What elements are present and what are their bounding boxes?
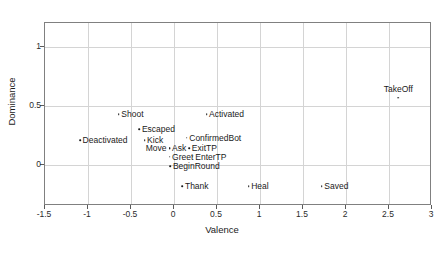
data-point-marker — [118, 113, 120, 115]
x-tick-label: 2 — [343, 209, 348, 219]
data-point-marker — [169, 156, 171, 158]
data-point-marker — [189, 148, 191, 150]
gridline-horizontal — [45, 106, 430, 107]
data-point-marker — [321, 185, 323, 187]
data-point-label: TakeOff — [384, 84, 413, 94]
data-point-label: ConfirmedBot — [189, 133, 241, 143]
y-axis-title: Dominance — [6, 67, 17, 137]
x-tick-label: -1 — [83, 209, 91, 219]
data-point-marker — [186, 137, 188, 139]
gridline-vertical — [389, 23, 390, 204]
gridline-vertical — [346, 23, 347, 204]
data-point-marker — [169, 148, 171, 150]
gridline-vertical — [303, 23, 304, 204]
x-tick-label: 2.5 — [382, 209, 394, 219]
gridline-vertical — [88, 23, 89, 204]
data-point-label: Shoot — [121, 109, 143, 119]
data-point-label: Escaped — [142, 124, 175, 134]
x-tick-label: 0.5 — [210, 209, 222, 219]
data-point-label: Deactivated — [83, 135, 128, 145]
data-point-marker — [182, 185, 184, 187]
data-point-marker — [248, 185, 250, 187]
data-point-marker — [170, 165, 172, 167]
x-tick-label: 3 — [429, 209, 434, 219]
gridline-horizontal — [45, 165, 430, 166]
y-tick-label: 0 — [36, 159, 41, 169]
x-tick-label: 1 — [257, 209, 262, 219]
data-point-marker — [144, 139, 146, 141]
x-tick-label: -1.5 — [37, 209, 52, 219]
data-point-marker — [398, 97, 400, 99]
data-point-label: BeginRound — [173, 161, 220, 171]
data-point-label: Move — [146, 143, 167, 153]
x-tick-label: 1.5 — [296, 209, 308, 219]
data-point-marker — [206, 113, 208, 115]
data-point-label: Heal — [251, 181, 268, 191]
scatter-chart: -1.5-1-0.500.511.522.53 00.51 Deactivate… — [0, 0, 444, 254]
data-point-label: Activated — [209, 109, 244, 119]
data-point-label: Saved — [324, 181, 348, 191]
x-tick-label: -0.5 — [123, 209, 138, 219]
y-tick-label: 1 — [36, 41, 41, 51]
y-tick-label: 0.5 — [29, 100, 41, 110]
x-tick-label: 0 — [171, 209, 176, 219]
data-point-marker — [139, 129, 141, 131]
data-point-label: Thank — [185, 181, 209, 191]
data-point-marker — [192, 156, 194, 158]
data-point-marker — [79, 139, 81, 141]
gridline-horizontal — [45, 47, 430, 48]
gridline-vertical — [260, 23, 261, 204]
gridline-vertical — [174, 23, 175, 204]
x-axis-title: Valence — [0, 224, 444, 235]
